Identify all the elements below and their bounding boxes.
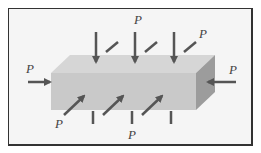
arrow-back-stub-1 — [106, 42, 118, 52]
label-p-top-right: P — [198, 26, 207, 41]
block — [51, 55, 215, 110]
block-top-face — [51, 55, 215, 73]
label-p-left: P — [25, 61, 34, 76]
label-p-right: P — [228, 62, 237, 77]
label-p-bottom-left: P — [54, 116, 63, 131]
arrow-back-stub-2 — [145, 42, 157, 52]
label-p-bottom-center: P — [127, 127, 136, 142]
block-diagram: P P P P P P — [0, 0, 261, 153]
label-p-top-center: P — [133, 12, 142, 27]
arrow-back-stub-3 — [184, 42, 196, 52]
block-front-face — [51, 73, 196, 110]
